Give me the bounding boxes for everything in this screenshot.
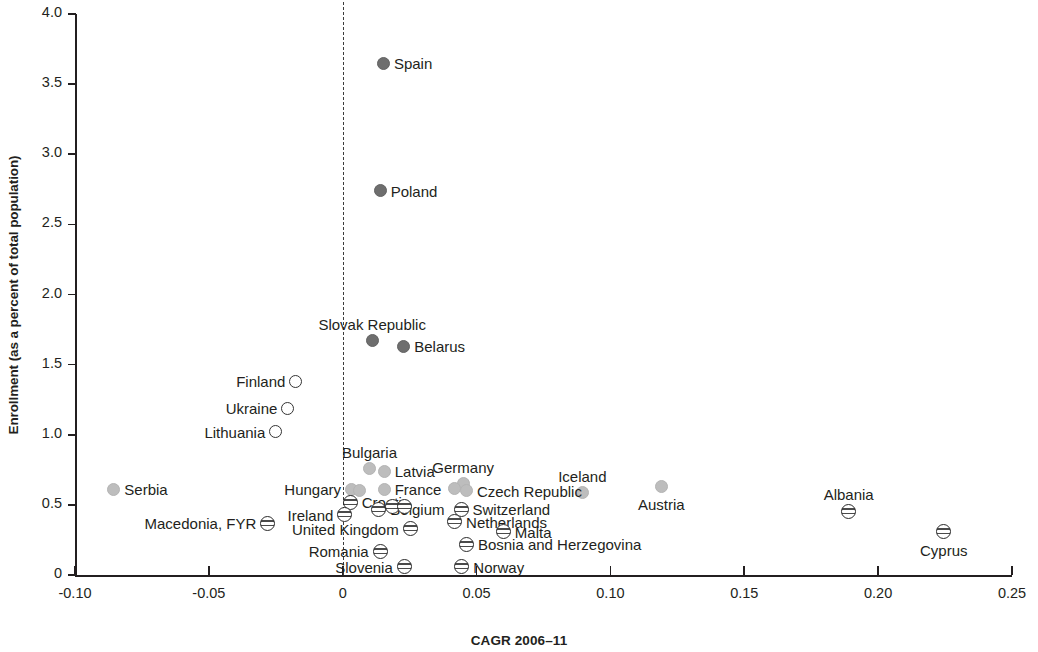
- x-tick-label: -0.10: [35, 585, 115, 601]
- y-tick: [68, 294, 76, 296]
- y-tick-label: 3.5: [14, 74, 62, 90]
- data-point-label: Serbia: [124, 482, 167, 497]
- y-tick: [68, 13, 76, 15]
- data-point-bosnia-and-herzegovina[interactable]: [459, 537, 474, 552]
- data-point-netherlands[interactable]: [447, 514, 462, 529]
- zero-reference-line: [343, 2, 344, 575]
- data-point-macedonia-fyr[interactable]: [260, 516, 275, 531]
- y-tick: [68, 153, 76, 155]
- y-tick: [68, 364, 76, 366]
- data-point-austria[interactable]: [655, 480, 668, 493]
- data-point-label: Romania: [309, 544, 369, 559]
- y-tick: [68, 434, 76, 436]
- data-point-finland[interactable]: [289, 375, 302, 388]
- data-point-label: Latvia: [395, 464, 435, 479]
- data-point-label: Austria: [638, 497, 685, 512]
- x-tick: [208, 566, 210, 575]
- data-point-label: Spain: [394, 56, 432, 71]
- data-point-label: Macedonia, FYR: [145, 516, 257, 531]
- data-point-latvia[interactable]: [378, 465, 391, 478]
- data-point-label: Iceland: [558, 468, 606, 483]
- data-point-belgium[interactable]: [371, 502, 386, 517]
- x-tick: [877, 566, 879, 575]
- x-tick-label: 0.20: [838, 585, 918, 601]
- data-point-united-kingdom[interactable]: [403, 521, 418, 536]
- y-tick-label: 1.5: [14, 355, 62, 371]
- y-tick-label: 2.0: [14, 285, 62, 301]
- y-tick: [68, 83, 76, 85]
- y-tick-label: 3.0: [14, 144, 62, 160]
- x-tick-label: 0.15: [704, 585, 784, 601]
- y-tick-label: 0: [14, 565, 62, 581]
- data-point-spain[interactable]: [377, 57, 390, 70]
- data-point-albania[interactable]: [841, 504, 856, 519]
- data-point-label: Belarus: [414, 339, 465, 354]
- x-tick: [743, 566, 745, 575]
- data-point-czech-republic[interactable]: [460, 484, 473, 497]
- data-point-serbia[interactable]: [107, 483, 120, 496]
- data-point-label: Slovak Republic: [318, 317, 426, 332]
- x-tick-label: 0.25: [972, 585, 1038, 601]
- data-point-label: Lithuania: [204, 424, 265, 439]
- x-tick: [610, 566, 612, 575]
- data-point-poland[interactable]: [374, 184, 387, 197]
- y-tick: [68, 504, 76, 506]
- data-point-label: Norway: [473, 559, 524, 574]
- data-point-label: Ukraine: [226, 401, 278, 416]
- data-point-label: Albania: [824, 487, 874, 502]
- x-tick-label: 0.10: [570, 585, 650, 601]
- data-point-label: Hungary: [284, 482, 341, 497]
- scatter-chart: Enrollment (as a percent of total popula…: [0, 0, 1038, 652]
- data-point-label: Cyprus: [920, 543, 968, 558]
- y-tick-label: 1.0: [14, 425, 62, 441]
- x-tick: [1011, 566, 1013, 575]
- data-point-romania[interactable]: [373, 544, 388, 559]
- data-point-label: Bulgaria: [342, 444, 397, 459]
- data-point-label: Poland: [391, 183, 438, 198]
- data-point-label: United Kingdom: [292, 521, 399, 536]
- x-tick-label: 0: [303, 585, 383, 601]
- data-point-label: Bosnia and Herzegovina: [478, 537, 641, 552]
- x-axis-line: [75, 575, 1012, 577]
- x-tick-label: -0.05: [169, 585, 249, 601]
- data-point-norway[interactable]: [454, 559, 469, 574]
- data-point-slovak-republic[interactable]: [366, 334, 379, 347]
- y-tick-label: 2.5: [14, 214, 62, 230]
- x-tick: [74, 566, 76, 575]
- data-point-label: Czech Republic: [477, 483, 582, 498]
- data-point-germany2[interactable]: [448, 482, 461, 495]
- data-point-slovenia[interactable]: [397, 559, 412, 574]
- data-point-lithuania[interactable]: [269, 425, 282, 438]
- y-tick-label: 4.0: [14, 4, 62, 20]
- y-tick-label: 0.5: [14, 495, 62, 511]
- x-axis-title: CAGR 2006–11: [0, 633, 1038, 648]
- data-point-label: Finland: [236, 374, 285, 389]
- data-point-label: Slovenia: [335, 559, 393, 574]
- y-tick: [68, 224, 76, 226]
- data-point-ukraine[interactable]: [281, 402, 294, 415]
- data-point-belarus[interactable]: [397, 340, 410, 353]
- data-point-cyprus[interactable]: [936, 524, 951, 539]
- x-tick-label: 0.05: [437, 585, 517, 601]
- data-point-bulgaria[interactable]: [363, 462, 376, 475]
- data-point-label: Germany: [432, 460, 494, 475]
- data-point-croatia3[interactable]: [397, 499, 412, 514]
